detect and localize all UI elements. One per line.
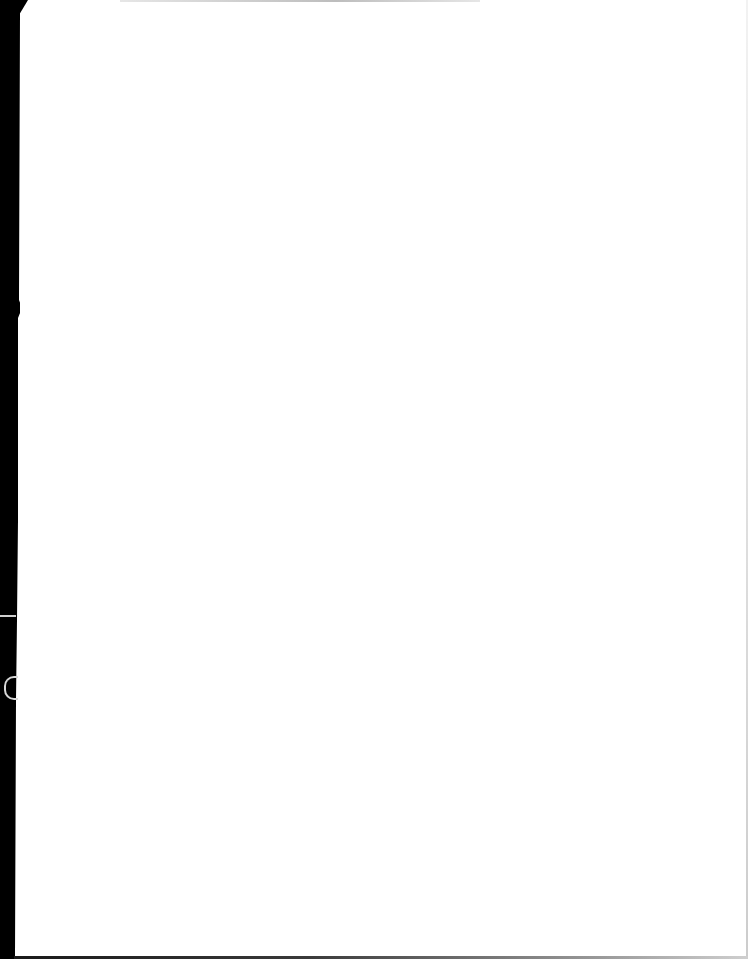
scan-artifact-curl xyxy=(4,676,18,700)
page-edge-top xyxy=(120,0,480,2)
scanned-page xyxy=(0,0,748,959)
scan-border-left xyxy=(0,0,20,959)
blank-page-body xyxy=(22,3,746,956)
scan-artifact-line xyxy=(0,615,16,617)
